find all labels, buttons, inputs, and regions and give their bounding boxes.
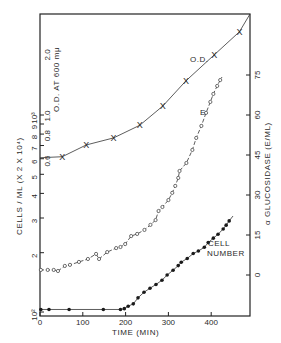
od-tick-label: 0.8 <box>43 130 52 142</box>
x-tick-label: 200 <box>119 318 133 327</box>
od-tick-label: 1.0 <box>43 110 52 122</box>
filled-circle-marker <box>227 219 231 223</box>
right-tick-label: 75 <box>253 70 262 79</box>
left-od-axis-ticks: 0.60.81.02.0 <box>43 49 52 167</box>
open-circle-marker <box>216 84 219 87</box>
filled-circle-marker <box>39 308 43 312</box>
open-circle-marker <box>157 209 160 212</box>
series-label-od: O.D. <box>190 55 208 64</box>
plot-frame <box>40 14 250 316</box>
od-tick-label: 2.0 <box>43 49 52 61</box>
open-circle-marker <box>177 176 180 179</box>
open-circle-marker <box>106 250 109 253</box>
series-0: XXXXXXXX <box>40 14 250 162</box>
x-axis-title: TIME (MIN) <box>112 328 159 337</box>
left-tick-label: 3 <box>30 218 39 223</box>
left-tick-label: 10³ <box>30 112 39 124</box>
left-tick-label: 6 <box>30 159 39 164</box>
filled-circle-marker <box>221 227 225 231</box>
left-od-axis-title: O.D. AT 600 mμ <box>52 47 61 112</box>
left-tick-label: 5 <box>30 175 39 180</box>
open-circle-marker <box>195 136 198 139</box>
chart-canvas: 0100200300400 10²2345678910³ 0.60.81.02.… <box>0 0 281 343</box>
series-line <box>41 216 233 309</box>
open-circle-marker <box>191 148 194 151</box>
x-tick-label: 300 <box>162 318 176 327</box>
x-marker: X <box>137 120 143 130</box>
open-circle-marker <box>136 232 139 235</box>
open-circle-marker <box>167 198 170 201</box>
x-marker: X <box>160 101 166 111</box>
open-circle-marker <box>52 268 55 271</box>
left-tick-label: 4 <box>30 194 39 199</box>
open-circle-marker <box>161 205 164 208</box>
x-marker: X <box>111 133 117 143</box>
series-2 <box>39 216 233 311</box>
open-circle-marker <box>154 218 157 221</box>
open-circle-marker <box>124 242 127 245</box>
open-circle-marker <box>56 269 59 272</box>
left-tick-label: 2 <box>30 253 39 258</box>
right-tick-label: 0 <box>253 272 262 277</box>
od-tick-label: 0.6 <box>43 155 52 167</box>
x-marker: X <box>59 152 65 162</box>
right-tick-label: 45 <box>253 150 262 159</box>
filled-circle-marker <box>47 308 51 312</box>
open-circle-marker <box>115 246 118 249</box>
open-circle-marker <box>219 78 222 81</box>
filled-circle-marker <box>176 264 180 268</box>
filled-circle-marker <box>160 278 164 282</box>
right-axis-ticks: 01530456075 <box>246 70 262 277</box>
open-circle-marker <box>86 257 89 260</box>
open-circle-marker <box>63 264 66 267</box>
filled-circle-marker <box>154 283 158 287</box>
right-axis-title: α GLUCOSIDASE (E/ML) <box>263 122 272 225</box>
open-circle-marker <box>39 268 42 271</box>
filled-circle-marker <box>165 273 169 277</box>
left-cells-axis-title: CELLS / ML (X 2 X 10⁴) <box>15 137 24 235</box>
filled-circle-marker <box>132 302 136 306</box>
filled-circle-marker <box>102 308 106 312</box>
open-circle-marker <box>143 228 146 231</box>
filled-circle-marker <box>148 286 152 290</box>
x-marker: X <box>83 140 89 150</box>
open-circle-marker <box>46 268 49 271</box>
x-marker: X <box>236 27 242 37</box>
series-line <box>40 77 222 271</box>
open-circle-marker <box>68 263 71 266</box>
chart-figure: 0100200300400 10²2345678910³ 0.60.81.02.… <box>0 0 281 343</box>
open-circle-marker <box>174 184 177 187</box>
right-tick-label: 15 <box>253 230 262 239</box>
filled-circle-marker <box>171 268 175 272</box>
filled-circle-marker <box>197 249 201 253</box>
open-circle-marker <box>119 245 122 248</box>
open-circle-marker <box>185 161 188 164</box>
filled-circle-marker <box>224 223 228 227</box>
x-marker: X <box>183 76 189 86</box>
filled-circle-marker <box>191 252 195 256</box>
left-tick-label: 7 <box>30 146 39 151</box>
open-circle-marker <box>77 260 80 263</box>
filled-circle-marker <box>216 232 220 236</box>
filled-circle-marker <box>185 257 189 261</box>
filled-circle-marker <box>119 308 123 312</box>
series-1 <box>39 77 222 273</box>
series-label-e: E <box>200 108 206 117</box>
series-label-number: NUMBER <box>207 249 245 258</box>
left-tick-label: 10² <box>30 309 39 321</box>
filled-circle-marker <box>179 260 183 264</box>
x-marker: X <box>211 50 217 60</box>
left-tick-label: 9 <box>30 124 39 129</box>
left-cells-axis-ticks: 10²2345678910³ <box>30 112 44 321</box>
x-tick-label: 100 <box>76 318 90 327</box>
series-layer: XXXXXXXX <box>39 14 250 311</box>
open-circle-marker <box>212 92 215 95</box>
filled-circle-marker <box>136 296 140 300</box>
open-circle-marker <box>94 252 97 255</box>
open-circle-marker <box>171 191 174 194</box>
x-tick-label: 400 <box>205 318 219 327</box>
open-circle-marker <box>178 169 181 172</box>
filled-circle-marker <box>67 308 71 312</box>
filled-circle-marker <box>123 307 127 311</box>
filled-circle-marker <box>203 246 207 250</box>
